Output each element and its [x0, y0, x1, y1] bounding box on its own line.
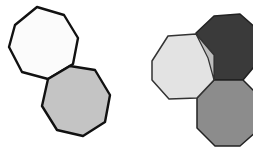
right-octagon-group — [152, 14, 253, 146]
left-octagon-group — [9, 7, 110, 136]
gray-octagon — [42, 66, 110, 136]
diagram-canvas — [0, 0, 253, 153]
octagon-diagram — [0, 0, 253, 153]
